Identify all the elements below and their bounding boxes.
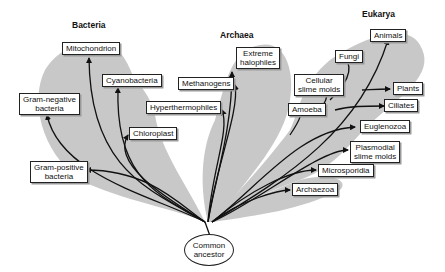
node-fungi: Fungi xyxy=(335,50,363,63)
node-plants: Plants xyxy=(393,82,423,95)
node-label: bacteria xyxy=(45,172,73,181)
node-common-ancestor: Commonancestor xyxy=(184,234,234,266)
domain-label-bacteria: Bacteria xyxy=(72,20,106,30)
node-label: slime molds xyxy=(298,85,340,94)
node-amoeba: Amoeba xyxy=(288,103,326,116)
node-microsporidia: Microsporidia xyxy=(318,164,374,177)
node-cyanobacteria: Cyanobacteria xyxy=(102,74,162,87)
node-cellular-slime-molds: Cellularslime molds xyxy=(294,74,344,96)
node-plasmodial-slime-molds: Plasmodialslime molds xyxy=(350,141,400,163)
node-label: Cellular xyxy=(306,76,333,85)
node-label: Chloroplast xyxy=(133,129,173,138)
node-mitochondrion: Mitochondrion xyxy=(62,42,120,55)
node-methanogens: Methanogens xyxy=(178,77,234,90)
node-label: Archaezoa xyxy=(296,185,334,194)
node-label: slime molds xyxy=(354,152,396,161)
node-label: ancestor xyxy=(194,250,225,259)
domain-label-eukarya: Eukarya xyxy=(362,9,395,19)
node-ciliates: Ciliates xyxy=(384,99,418,112)
node-label: Plants xyxy=(397,84,419,93)
node-label: Extreme xyxy=(243,49,273,58)
node-gram-negative: Gram-negativebacteria xyxy=(19,93,80,115)
domain-label-archaea: Archaea xyxy=(220,30,254,40)
node-label: Animals xyxy=(374,31,402,40)
node-label: bacteria xyxy=(35,104,63,113)
node-hyperthermophiles: Hyperthermophiles xyxy=(146,101,221,114)
node-label: Mitochondrion xyxy=(66,44,116,53)
node-label: Plasmodial xyxy=(356,143,395,152)
node-animals: Animals xyxy=(370,29,406,42)
node-label: halophiles xyxy=(240,58,276,67)
node-chloroplast: Chloroplast xyxy=(129,127,177,140)
node-label: Common xyxy=(193,241,225,250)
node-label: Methanogens xyxy=(182,79,230,88)
node-label: Euglenozoa xyxy=(364,122,406,131)
node-label: Amoeba xyxy=(292,105,322,114)
node-gram-positive: Gram-positivebacteria xyxy=(30,161,88,183)
node-label: Hyperthermophiles xyxy=(150,103,217,112)
node-label: Ciliates xyxy=(388,101,414,110)
node-euglenozoa: Euglenozoa xyxy=(360,120,410,133)
node-label: Microsporidia xyxy=(322,166,370,175)
node-archaezoa: Archaezoa xyxy=(292,183,338,196)
node-label: Gram-negative xyxy=(23,95,76,104)
node-label: Fungi xyxy=(339,52,359,61)
node-label: Gram-positive xyxy=(34,163,84,172)
node-label: Cyanobacteria xyxy=(106,76,158,85)
node-extreme-halophiles: Extremehalophiles xyxy=(236,47,280,69)
